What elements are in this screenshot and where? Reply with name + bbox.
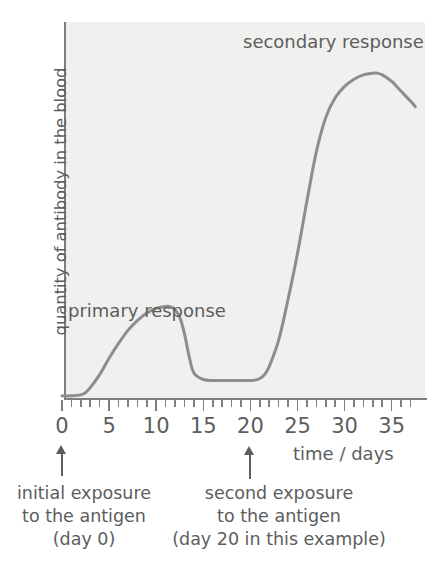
x-axis-tick-minor	[306, 400, 308, 407]
x-axis-tick-minor	[278, 400, 280, 407]
x-axis-tick-minor	[174, 400, 176, 407]
x-axis-tick-major	[155, 400, 157, 411]
x-axis-tick-major	[61, 400, 63, 411]
x-axis-tick-minor	[259, 400, 261, 407]
x-axis-tick-minor	[268, 400, 270, 407]
x-axis-tick-minor	[316, 400, 318, 407]
x-axis-tick-minor	[240, 400, 242, 407]
x-axis-tick-minor	[363, 400, 365, 407]
x-axis-tick-minor	[99, 400, 101, 407]
x-axis-tick-minor	[353, 400, 355, 407]
x-axis-tick-minor	[325, 400, 327, 407]
x-axis-tick-minor	[165, 400, 167, 407]
second-exposure-arrow-shaft	[249, 453, 251, 479]
caption-line: second exposure	[155, 482, 403, 505]
x-axis-tick-label: 35	[372, 414, 412, 438]
caption-line: initial exposure	[0, 482, 168, 505]
caption-line: to the antigen	[0, 505, 168, 528]
caption-line: (day 0)	[0, 528, 168, 551]
x-axis-tick-minor	[410, 400, 412, 407]
x-axis-tick-label: 25	[278, 414, 318, 438]
x-axis-tick-minor	[146, 400, 148, 407]
x-axis-tick-minor	[89, 400, 91, 407]
x-axis-tick-major	[203, 400, 205, 411]
x-axis-tick-major	[344, 400, 346, 411]
initial-exposure-caption: initial exposure to the antigen (day 0)	[0, 482, 168, 551]
x-axis-tick-minor	[372, 400, 374, 407]
x-axis-tick-major	[391, 400, 393, 411]
plot-area	[66, 22, 425, 398]
x-axis-tick-minor	[381, 400, 383, 407]
x-axis-tick-minor	[287, 400, 289, 407]
x-axis-tick-minor	[231, 400, 233, 407]
x-axis-tick-major	[108, 400, 110, 411]
x-axis-tick-minor	[334, 400, 336, 407]
x-axis-tick-label: 15	[183, 414, 223, 438]
x-axis-tick-minor	[212, 400, 214, 407]
second-exposure-caption: second exposure to the antigen (day 20 i…	[155, 482, 403, 551]
antibody-response-chart: quantity of antibody in the blood 051015…	[0, 0, 438, 563]
x-axis-title: time / days	[293, 443, 394, 464]
x-axis-tick-label: 0	[42, 414, 82, 438]
secondary-response-label: secondary response	[243, 31, 424, 52]
x-axis-tick-minor	[193, 400, 195, 407]
x-axis-tick-minor	[80, 400, 82, 407]
x-axis-tick-major	[250, 400, 252, 411]
x-axis-tick-minor	[137, 400, 139, 407]
x-axis-tick-major	[297, 400, 299, 411]
y-axis-title: quantity of antibody in the blood	[51, 32, 70, 372]
x-axis-tick-minor	[221, 400, 223, 407]
x-axis-tick-label: 20	[230, 414, 270, 438]
initial-exposure-arrow-shaft	[61, 452, 63, 476]
caption-line: (day 20 in this example)	[155, 528, 403, 551]
x-axis-tick-minor	[118, 400, 120, 407]
x-axis-tick-minor	[71, 400, 73, 407]
caption-line: to the antigen	[155, 505, 403, 528]
x-axis-tick-minor	[127, 400, 129, 407]
x-axis-tick-label: 30	[325, 414, 365, 438]
x-axis-tick-label: 5	[89, 414, 129, 438]
primary-response-label: primary response	[68, 300, 226, 321]
x-axis-tick-minor	[184, 400, 186, 407]
x-axis-tick-minor	[400, 400, 402, 407]
x-axis-tick-label: 10	[136, 414, 176, 438]
